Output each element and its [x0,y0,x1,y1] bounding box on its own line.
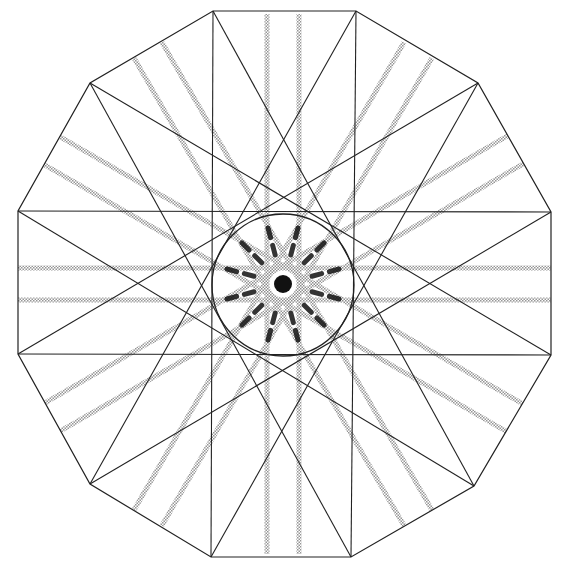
star-line [18,211,551,212]
star-line [18,354,551,355]
center-marks [223,224,343,344]
diagram-canvas [0,0,566,575]
dodecagon-star-diagram [0,0,566,575]
center-dot [274,275,292,293]
